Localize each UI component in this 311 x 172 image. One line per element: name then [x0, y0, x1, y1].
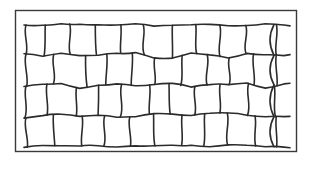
cell-wall-vertical — [131, 53, 132, 86]
cell-wall-vertical — [106, 54, 107, 84]
cell-wall-vertical — [253, 54, 255, 85]
cell-wall-vertical — [129, 117, 131, 146]
cell-wall-left-edge — [25, 54, 27, 86]
cell-wall-right-cap — [270, 55, 274, 84]
cell-wall-right-cap — [270, 25, 274, 56]
cell-wall-horizontal — [24, 145, 290, 148]
cell-wall-left-edge — [25, 86, 27, 118]
cell-wall-vertical — [169, 84, 170, 114]
cell-wall-vertical — [46, 84, 47, 115]
cell-grid — [24, 24, 290, 148]
cell-wall-left-edge — [25, 25, 27, 54]
cell-wall-vertical — [98, 85, 99, 115]
cell-wall-horizontal — [24, 83, 290, 88]
cell-wall-vertical — [81, 116, 82, 146]
cell-wall-vertical — [44, 25, 45, 56]
cell-wall-right-cap — [270, 85, 274, 117]
cell-wall-right-cap — [270, 117, 274, 147]
cell-wall-vertical — [76, 88, 77, 116]
cell-wall-vertical — [204, 114, 205, 146]
cell-wall-vertical — [276, 117, 277, 147]
cell-wall-vertical — [154, 58, 155, 85]
cell-wall-vertical — [181, 55, 182, 85]
cell-wall-horizontal — [24, 113, 290, 118]
cell-wall-vertical — [228, 58, 230, 85]
cell-wall-vertical — [53, 115, 55, 146]
cell-wall-vertical — [120, 25, 121, 53]
cell-wall-vertical — [255, 116, 256, 146]
cell-wall-vertical — [86, 56, 88, 88]
cell-wall-vertical — [149, 85, 150, 115]
cell-wall-horizontal — [24, 53, 290, 59]
cell-wall-vertical — [95, 25, 96, 56]
cell-wall-vertical — [53, 54, 55, 83]
cell-wall-left-edge — [25, 118, 27, 147]
cell-wall-vertical — [154, 114, 155, 146]
cell-wall-vertical — [206, 55, 208, 85]
cell-wall-vertical — [219, 25, 221, 56]
cell-wall-vertical — [182, 115, 183, 146]
cell-wall-vertical — [143, 25, 145, 55]
cell-diagram — [0, 0, 311, 172]
cell-wall-vertical — [69, 24, 70, 54]
cell-wall-horizontal — [24, 24, 290, 26]
cell-wall-vertical — [274, 86, 275, 117]
cell-wall-vertical — [227, 113, 229, 145]
cell-wall-vertical — [120, 84, 122, 117]
cell-wall-vertical — [196, 25, 197, 54]
cell-wall-vertical — [276, 55, 277, 85]
cell-wall-vertical — [194, 87, 195, 115]
cell-wall-vertical — [220, 85, 221, 114]
cell-wall-vertical — [104, 116, 105, 146]
cell-wall-vertical — [247, 83, 249, 115]
cell-wall-vertical — [245, 26, 247, 54]
cell-wall-vertical — [276, 25, 277, 56]
